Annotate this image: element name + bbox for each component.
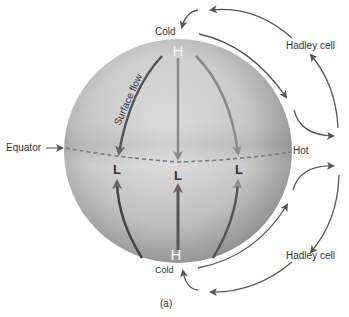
hot-label: Hot [293, 145, 309, 156]
hadley-cell-diagram: H H L L L Surface flow Equator Cold Cold… [0, 0, 349, 317]
low-pressure-center: L [174, 168, 182, 183]
high-pressure-bottom: H [171, 246, 182, 263]
equator-label: Equator [6, 142, 42, 153]
low-pressure-right: L [235, 162, 243, 177]
hadley-cell-label-bottom: Hadley cell [286, 250, 335, 261]
figure-caption: (a) [160, 298, 172, 309]
cold-label-top: Cold [155, 26, 176, 37]
cold-label-bottom: Cold [155, 265, 174, 275]
high-pressure-top: H [173, 42, 184, 59]
hadley-cell-label-top: Hadley cell [286, 40, 335, 51]
low-pressure-left: L [113, 162, 121, 177]
